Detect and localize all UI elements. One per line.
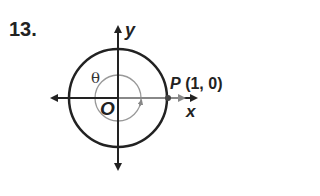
- point-label: P (1, 0): [170, 75, 222, 93]
- point-name: P: [170, 75, 181, 92]
- x-axis-label: x: [186, 102, 195, 122]
- origin-label: O: [100, 98, 115, 120]
- point-coords: (1, 0): [185, 75, 222, 92]
- point-p: [165, 95, 171, 101]
- y-axis-label: y: [125, 20, 135, 41]
- angle-label: θ: [91, 69, 100, 87]
